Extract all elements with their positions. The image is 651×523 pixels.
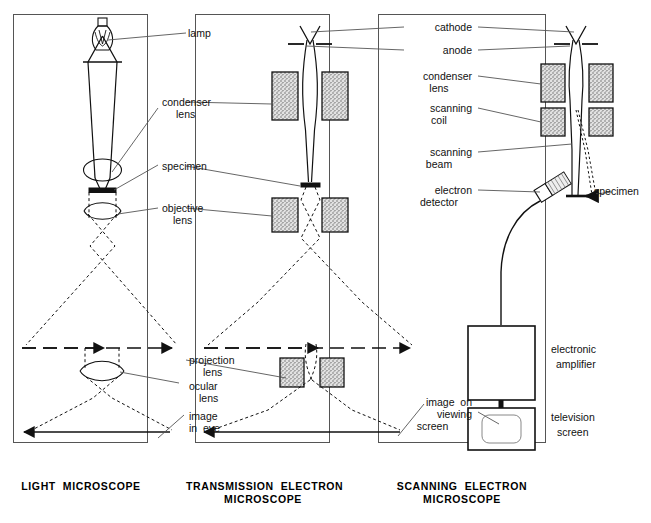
- label-anode: anode: [406, 44, 472, 56]
- label-condenser-lens-light-line1: condenser: [162, 96, 211, 108]
- specimen-tem: [301, 183, 320, 187]
- caption-tem-line1: TRANSMISSION ELECTRON: [186, 480, 340, 493]
- leader-electron-detector: [478, 190, 540, 192]
- projection-lens-tem: [280, 358, 344, 387]
- leader-anode-sem: [478, 46, 570, 50]
- label-image-in-eye-line1: image: [189, 410, 218, 422]
- label-electron-detector-line2: detector: [406, 196, 472, 208]
- label-scanning-coil-line1: scanning: [406, 102, 472, 114]
- label-ocular-lens-line1: ocular: [189, 380, 218, 392]
- panel-frame-light: [14, 15, 148, 443]
- label-scanning-coil-line2: coil: [406, 114, 472, 126]
- label-objective-lens-light-line1: objective: [162, 202, 203, 214]
- label-scanning-beam-line2: beam: [406, 158, 472, 170]
- sem-electron-beam: [569, 40, 583, 195]
- leader-condenser-light: [112, 108, 158, 172]
- label-image-in-eye-line2: in eye: [189, 422, 220, 434]
- label-image-on-viewing-screen-line1: image on: [393, 396, 472, 408]
- label-scanning-beam-line1: scanning: [406, 146, 472, 158]
- light-microscope-optics: [22, 18, 177, 432]
- label-condenser-lens-sem-line1: condenser: [406, 70, 472, 82]
- condenser-lens-tem: [272, 72, 348, 120]
- label-television-screen-line2: screen: [557, 426, 589, 438]
- caption-sem-line1: SCANNING ELECTRON: [378, 480, 546, 493]
- label-image-on-viewing-screen-line2: viewing: [393, 408, 472, 420]
- light-ray-fan-upper: [26, 214, 177, 345]
- tem-panel-leaders: [186, 102, 424, 436]
- tem-optics: [204, 26, 412, 432]
- label-condenser-lens-sem-line2: lens: [406, 82, 472, 94]
- specimen-light: [89, 188, 116, 193]
- sem-optics: [468, 26, 613, 450]
- amplifier-tv-connector: [499, 400, 504, 408]
- label-objective-lens-light-line2: lens: [173, 214, 192, 226]
- leader-ocular-light: [120, 372, 179, 383]
- label-specimen-sem: specimen: [594, 185, 639, 197]
- leader-anode-tem: [306, 46, 404, 50]
- label-projection-lens-line1: projection: [189, 354, 235, 366]
- light-ocular-object-stubs: [85, 348, 119, 368]
- condenser-lens-sem: [541, 64, 613, 102]
- label-television-screen-line1: television: [551, 411, 595, 423]
- detector-cable: [501, 201, 540, 325]
- microscope-diagram-svg: [0, 0, 651, 523]
- label-ocular-lens-line2: lens: [199, 392, 218, 404]
- label-electron-detector-line1: electron: [406, 184, 472, 196]
- electronic-amplifier-box: [468, 326, 535, 400]
- tem-ray-fan-upper: [208, 187, 412, 345]
- cathode-tem: [300, 26, 320, 44]
- label-cathode: cathode: [406, 21, 472, 33]
- leader-scanning-beam: [478, 144, 572, 152]
- leader-condenser-sem: [478, 76, 541, 84]
- condenser-lens-light: [84, 159, 122, 181]
- caption-tem-line2: MICROSCOPE: [186, 493, 340, 506]
- leader-scanning-coil: [478, 108, 541, 122]
- label-condenser-lens-light-line2: lens: [176, 108, 195, 120]
- objective-lens-tem: [272, 198, 348, 232]
- viewing-screen-image: [482, 415, 521, 443]
- lamp-icon: [92, 18, 112, 50]
- diagram-root: lamp condenser lens specimen objective l…: [0, 0, 651, 523]
- leader-cathode-tem: [311, 27, 404, 32]
- light-ray-fan-lower: [32, 377, 172, 430]
- caption-light-microscope: LIGHT MICROSCOPE: [13, 480, 149, 493]
- tem-electron-beam: [303, 40, 318, 182]
- electron-detector-sem: [534, 172, 571, 202]
- label-lamp: lamp: [188, 27, 211, 39]
- tem-projection-waist: [305, 344, 317, 380]
- label-electronic-amplifier-line2: amplifier: [556, 358, 596, 370]
- label-projection-lens-line2: lens: [203, 366, 222, 378]
- leader-specimen-light: [114, 165, 158, 190]
- label-electronic-amplifier-line1: electronic: [551, 343, 596, 355]
- panel-frame-tem: [196, 15, 330, 443]
- label-specimen-light: specimen: [162, 160, 207, 172]
- cathode-sem: [566, 26, 586, 44]
- tem-ray-fan-lower: [212, 380, 400, 430]
- lamp-emission-cone: [83, 36, 122, 62]
- leader-cathode-sem: [478, 27, 574, 32]
- leader-objective-light: [118, 208, 158, 214]
- label-image-on-viewing-screen-line3: screen: [393, 420, 472, 432]
- leader-image-in-eye: [158, 415, 184, 438]
- caption-sem-line2: MICROSCOPE: [378, 493, 546, 506]
